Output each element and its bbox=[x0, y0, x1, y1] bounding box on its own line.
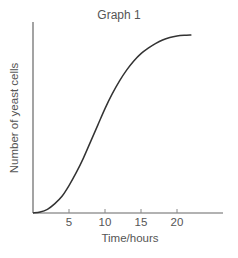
x-axis-label: Time/hours bbox=[95, 232, 165, 244]
growth-curve bbox=[33, 35, 191, 213]
x-tick-label: 20 bbox=[171, 216, 184, 228]
x-tick-label: 15 bbox=[135, 216, 148, 228]
x-tick-label: 5 bbox=[66, 216, 72, 228]
chart-container: Graph 1 Number of yeast cells 5101520 Ti… bbox=[0, 0, 238, 258]
plot-area bbox=[0, 0, 238, 258]
x-tick-label: 10 bbox=[99, 216, 112, 228]
